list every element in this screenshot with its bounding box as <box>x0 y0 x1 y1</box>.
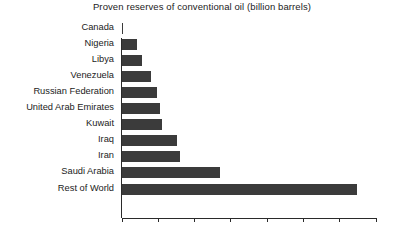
bar <box>122 151 180 162</box>
x-tick-label: 700 <box>356 223 396 225</box>
category-label: Venezuela <box>0 70 114 81</box>
bar <box>122 119 163 130</box>
x-tick-label: 500 <box>283 223 323 225</box>
chart-figure: Proven reserves of conventional oil (bil… <box>0 0 404 225</box>
category-label: Iraq <box>0 134 114 145</box>
bar <box>122 167 220 178</box>
bar <box>122 39 137 50</box>
bar-row: United Arab Emirates <box>0 101 404 117</box>
category-label: Rest of World <box>0 183 114 194</box>
x-tick <box>267 218 268 222</box>
x-tick <box>339 218 340 222</box>
bar-row: Nigeria <box>0 36 404 52</box>
category-label: Canada <box>0 22 114 33</box>
bar-row: Libya <box>0 52 404 68</box>
x-tick-label: 0 <box>102 223 142 225</box>
bar <box>122 184 357 195</box>
x-tick-label: 100 <box>138 223 178 225</box>
category-label: Nigeria <box>0 38 114 49</box>
bar <box>122 55 142 66</box>
bar-row: Russian Federation <box>0 84 404 100</box>
x-tick-label: 300 <box>210 223 250 225</box>
bar-row: Canada <box>0 20 404 36</box>
x-tick-label: 600 <box>319 223 359 225</box>
bar-row: Iraq <box>0 133 404 149</box>
chart-title: Proven reserves of conventional oil (bil… <box>0 1 404 12</box>
bar <box>122 87 157 98</box>
bar-row: Kuwait <box>0 117 404 133</box>
category-label: Kuwait <box>0 118 114 129</box>
x-tick <box>194 218 195 222</box>
x-tick <box>376 218 377 222</box>
bar-row: Rest of World <box>0 181 404 197</box>
bar <box>122 23 124 34</box>
category-label: Libya <box>0 54 114 65</box>
plot-area: CanadaNigeriaLibyaVenezuelaRussian Feder… <box>0 18 404 200</box>
x-tick-label: 200 <box>174 223 214 225</box>
x-tick <box>303 218 304 222</box>
x-tick <box>158 218 159 222</box>
bar <box>122 103 160 114</box>
bar-row: Iran <box>0 149 404 165</box>
x-axis-line <box>122 218 377 219</box>
bar <box>122 135 177 146</box>
bar <box>122 71 151 82</box>
category-label: Russian Federation <box>0 86 114 97</box>
bar-row: Saudi Arabia <box>0 165 404 181</box>
category-label: United Arab Emirates <box>0 102 114 113</box>
category-label: Saudi Arabia <box>0 166 114 177</box>
x-tick <box>122 218 123 222</box>
x-tick <box>230 218 231 222</box>
category-label: Iran <box>0 150 114 161</box>
bar-row: Venezuela <box>0 68 404 84</box>
x-tick-label: 400 <box>247 223 287 225</box>
